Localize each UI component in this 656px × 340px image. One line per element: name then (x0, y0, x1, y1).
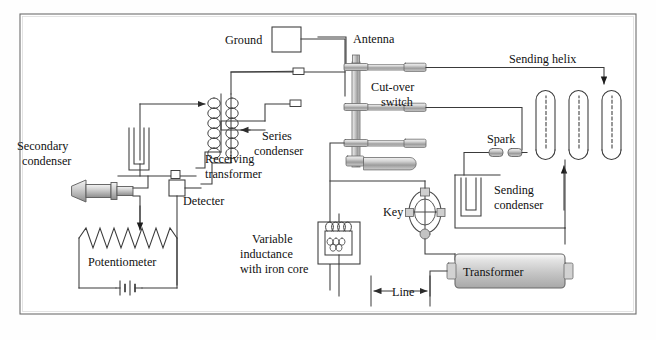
label-series-2: condenser (254, 144, 303, 158)
label-secondary-2: condenser (22, 154, 71, 168)
label-ground: Ground (225, 33, 262, 47)
label-detecter: Detecter (183, 194, 224, 208)
label-antenna: Antenna (353, 32, 395, 46)
cut-over-switch-knob (353, 55, 360, 63)
label-line: Line (392, 285, 414, 299)
label-key: Key (383, 205, 404, 219)
label-sending-cond-2: condenser (494, 198, 543, 212)
ground-box (272, 27, 301, 52)
label-transformer: Transformer (463, 265, 523, 279)
label-var-ind-3: with iron core (240, 262, 308, 276)
diagram-canvas: Ground Antenna Sending helix Cut-over sw… (0, 0, 656, 340)
label-potentiometer: Potentiometer (88, 255, 156, 269)
label-var-ind-1: Variable (252, 232, 293, 246)
label-spark: Spark (487, 132, 516, 146)
cut-over-switch-bar[interactable] (352, 62, 360, 167)
label-series-1: Series (262, 129, 292, 143)
detector-top-terminal (171, 171, 180, 179)
schematic-svg: Ground Antenna Sending helix Cut-over sw… (0, 0, 656, 340)
cut-over-contact-1[interactable] (344, 63, 426, 71)
label-sending-cond-1: Sending (494, 183, 534, 197)
label-cut-over-switch-2: switch (381, 95, 413, 109)
label-recv-trans-2: transformer (205, 167, 262, 181)
label-secondary-1: Secondary (17, 139, 69, 153)
label-sending-helix: Sending helix (509, 52, 576, 66)
series-condenser-upper-terminal-lead (231, 71, 293, 72)
label-cut-over-switch-1: Cut-over (371, 80, 414, 94)
cut-over-contact-3[interactable] (344, 139, 426, 147)
label-recv-trans-1: Receiving (205, 152, 254, 166)
label-var-ind-2: inductance (240, 247, 293, 261)
